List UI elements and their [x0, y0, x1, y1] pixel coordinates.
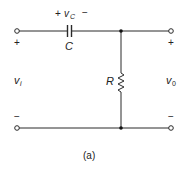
junction-bottom	[119, 126, 123, 130]
input-terminal-bottom	[15, 126, 20, 131]
input-voltage-subscript: i	[20, 80, 22, 87]
output-terminal-top	[169, 29, 174, 34]
rc-circuit-diagram: + v C − C R + v i − + v 0 − (a)	[0, 0, 184, 175]
figure-caption: (a)	[83, 150, 95, 161]
capacitor-voltage-subscript: C	[70, 13, 76, 20]
input-plus-sign: +	[14, 37, 20, 48]
junction-top	[119, 29, 123, 33]
input-terminal-top	[15, 29, 20, 34]
capacitor-label: C	[65, 40, 73, 52]
output-voltage-subscript: 0	[172, 80, 176, 87]
capacitor-minus-sign: −	[82, 7, 88, 18]
output-terminal-bottom	[169, 126, 174, 131]
resistor-label: R	[106, 75, 114, 87]
output-minus-sign: −	[168, 111, 174, 122]
resistor-zigzag	[118, 73, 124, 92]
capacitor-plus-sign: +	[55, 8, 61, 19]
input-minus-sign: −	[14, 111, 20, 122]
output-plus-sign: +	[168, 37, 174, 48]
